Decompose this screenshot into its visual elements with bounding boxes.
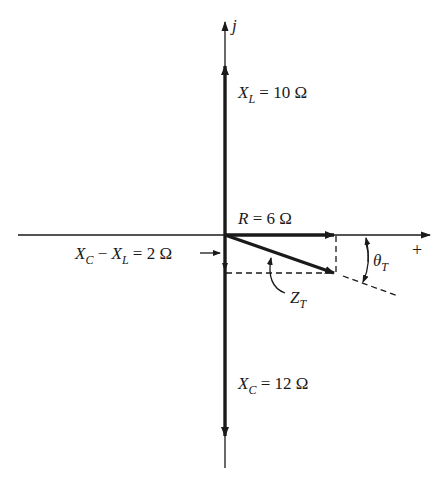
- phasor-diagram: j + XL = 10 Ω R = 6 Ω XC − XL = 2 Ω ZT θ…: [0, 0, 448, 480]
- j-axis-label: j: [230, 16, 237, 35]
- xc-label: XC = 12 Ω: [237, 374, 308, 397]
- zt-phasor: [225, 235, 334, 273]
- xl-label: XL = 10 Ω: [237, 83, 307, 106]
- zt-label: ZT: [290, 288, 307, 311]
- r-label: R = 6 Ω: [237, 209, 292, 228]
- xc-minus-xl-label: XC − XL = 2 Ω: [74, 244, 172, 267]
- theta-t-label: θT: [373, 251, 389, 274]
- dashed-zt-extension: [343, 276, 398, 296]
- plus-label: +: [412, 240, 422, 260]
- zt-leader: [270, 258, 285, 293]
